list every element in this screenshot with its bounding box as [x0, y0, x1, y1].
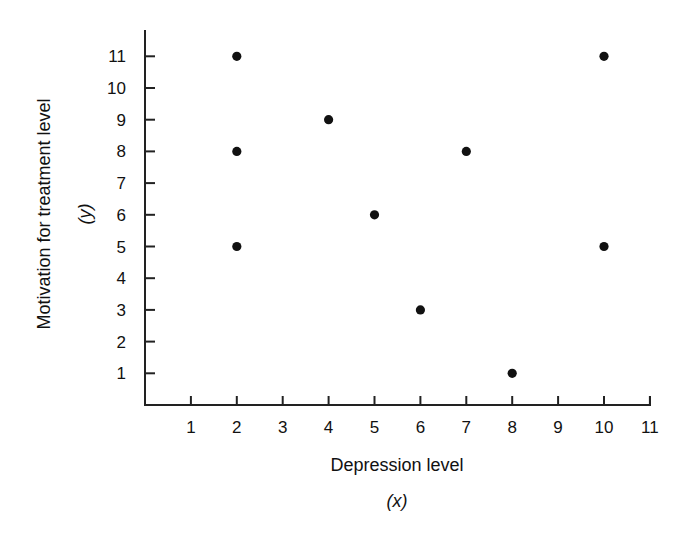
y-tick-label: 11	[108, 47, 126, 66]
x-tick-label: 3	[278, 418, 287, 437]
x-tick-label: 7	[462, 418, 471, 437]
y-axis-title: Motivation for treatment level	[34, 98, 54, 329]
data-points	[232, 52, 608, 378]
y-axis-ticks: 1234567891011	[107, 47, 155, 383]
y-tick-label: 10	[107, 79, 126, 98]
data-point	[508, 369, 517, 378]
y-tick-label: 3	[117, 301, 126, 320]
y-tick-label: 5	[117, 238, 126, 257]
x-axis-ticks: 1234567891011	[186, 396, 659, 437]
y-tick-label: 2	[117, 333, 126, 352]
x-tick-label: 10	[595, 418, 614, 437]
x-axis-variable: (x)	[387, 491, 408, 511]
x-tick-label: 11	[641, 418, 659, 437]
data-point	[416, 305, 425, 314]
y-tick-label: 7	[117, 174, 126, 193]
data-point	[599, 52, 608, 61]
data-point	[232, 242, 241, 251]
y-tick-label: 4	[117, 269, 126, 288]
data-point	[462, 147, 471, 156]
scatter-chart: 1234567891011 1234567891011 Depression l…	[0, 0, 692, 539]
data-point	[599, 242, 608, 251]
data-point	[232, 52, 241, 61]
y-tick-label: 9	[117, 111, 126, 130]
x-tick-label: 9	[553, 418, 562, 437]
x-tick-label: 5	[370, 418, 379, 437]
y-tick-label: 8	[117, 142, 126, 161]
x-tick-label: 6	[416, 418, 425, 437]
x-tick-label: 1	[186, 418, 195, 437]
x-tick-label: 4	[324, 418, 333, 437]
data-point	[232, 147, 241, 156]
y-tick-label: 1	[117, 364, 126, 383]
y-tick-label: 6	[117, 206, 126, 225]
x-tick-label: 8	[507, 418, 516, 437]
data-point	[324, 115, 333, 124]
x-axis-title: Depression level	[330, 455, 463, 475]
y-axis-variable: (y)	[75, 204, 95, 225]
x-tick-label: 2	[232, 418, 241, 437]
data-point	[370, 210, 379, 219]
